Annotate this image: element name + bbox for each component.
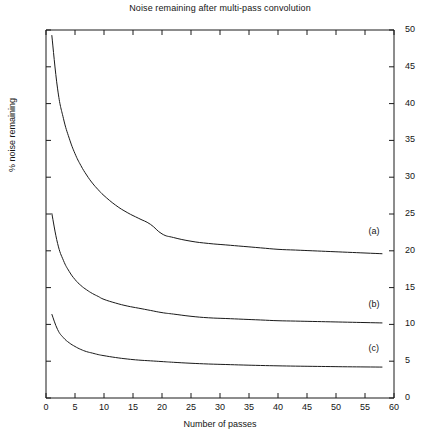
series-label-b: (b) — [369, 299, 380, 309]
x-tick-label: 5 — [60, 402, 90, 412]
x-tick-label: 15 — [118, 402, 148, 412]
series-line-a — [52, 35, 383, 254]
x-tick-label: 20 — [147, 402, 177, 412]
x-tick-label: 0 — [31, 402, 61, 412]
y-tick-label: 30 — [405, 171, 435, 181]
y-tick-label: 45 — [405, 61, 435, 71]
x-tick-label: 10 — [89, 402, 119, 412]
axes-frame — [46, 30, 394, 398]
y-tick-label: 25 — [405, 208, 435, 218]
data-curves — [52, 35, 383, 367]
plot-area — [0, 0, 440, 440]
chart-figure: Noise remaining after multi-pass convolu… — [0, 0, 440, 440]
y-tick-label: 50 — [405, 24, 435, 34]
x-tick-label: 25 — [176, 402, 206, 412]
x-tick-label: 55 — [350, 402, 380, 412]
x-tick-label: 50 — [321, 402, 351, 412]
x-tick-label: 45 — [292, 402, 322, 412]
x-tick-label: 35 — [234, 402, 264, 412]
series-label-a: (a) — [369, 226, 380, 236]
y-tick-label: 0 — [405, 392, 435, 402]
x-tick-label: 40 — [263, 402, 293, 412]
series-label-c: (c) — [369, 343, 380, 353]
y-tick-label: 35 — [405, 134, 435, 144]
y-tick-label: 5 — [405, 355, 435, 365]
y-tick-label: 20 — [405, 245, 435, 255]
axis-ticks — [46, 30, 394, 398]
y-tick-label: 15 — [405, 282, 435, 292]
y-tick-label: 40 — [405, 98, 435, 108]
y-tick-label: 10 — [405, 318, 435, 328]
series-line-b — [52, 213, 383, 323]
x-tick-label: 30 — [205, 402, 235, 412]
x-tick-label: 60 — [379, 402, 409, 412]
